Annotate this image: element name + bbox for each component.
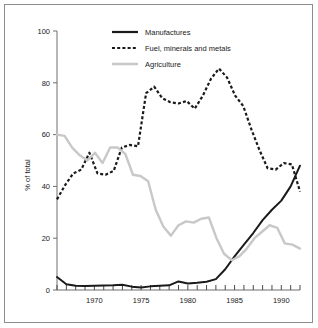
chart-legend: ManufacturesFuel, minerals and metalsAgr…	[112, 28, 231, 69]
y-axis-title: % of total	[23, 159, 32, 191]
y-tick-label: 20	[42, 234, 50, 243]
legend-label: Agriculture	[145, 60, 181, 69]
y-tick-group	[53, 31, 57, 290]
y-tick-label-group: 020406080100	[37, 27, 50, 295]
x-tick-label: 1990	[273, 296, 290, 305]
series-line-agriculture	[57, 135, 300, 261]
y-tick-label: 0	[46, 286, 50, 295]
x-tick-label: 1970	[86, 296, 103, 305]
legend-label: Manufactures	[145, 28, 191, 37]
series-line-fuel-minerals-and-metals	[57, 69, 300, 200]
y-tick-label: 80	[42, 79, 50, 88]
x-tick-label-group: 19701975198019851990	[86, 296, 290, 305]
y-tick-label: 100	[37, 27, 50, 36]
x-tick-label: 1975	[133, 296, 150, 305]
data-series-group	[57, 69, 300, 288]
chart-figure: 020406080100 19701975198019851990 % of t…	[0, 0, 318, 328]
line-chart: 020406080100 19701975198019851990 % of t…	[0, 0, 318, 328]
x-tick-label: 1980	[180, 296, 197, 305]
y-tick-label: 60	[42, 130, 50, 139]
x-tick-label: 1985	[226, 296, 243, 305]
legend-label: Fuel, minerals and metals	[145, 44, 231, 53]
y-tick-label: 40	[42, 182, 50, 191]
